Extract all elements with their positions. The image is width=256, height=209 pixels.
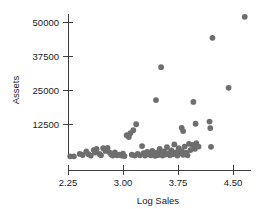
data-point [98, 152, 104, 158]
data-point [71, 153, 77, 159]
scatter-plot-figure: 12500250003750050000 2.253.003.754.50 Lo… [0, 0, 256, 209]
data-point [207, 125, 213, 131]
x-axis-title: Log Sales [137, 195, 180, 206]
data-point [196, 144, 202, 150]
y-axis-tick-label: 25000 [33, 85, 59, 96]
y-axis-title: Assets [10, 75, 21, 104]
data-point [94, 146, 100, 152]
y-axis: 12500250003750050000 [33, 14, 73, 158]
data-point [191, 99, 197, 105]
data-point [193, 121, 199, 127]
data-point [171, 142, 177, 148]
data-point [158, 64, 164, 70]
x-axis-tick-label: 2.25 [59, 177, 78, 188]
y-axis-tick-label: 12500 [33, 119, 59, 130]
data-point [180, 128, 186, 134]
data-point [130, 127, 136, 133]
data-point [242, 14, 248, 20]
data-point [185, 152, 191, 158]
data-point [208, 144, 214, 150]
data-point [226, 85, 232, 91]
data-points-layer [67, 14, 247, 159]
x-axis-tick-label: 4.50 [224, 177, 243, 188]
data-point [153, 97, 159, 103]
data-point [210, 35, 216, 41]
x-axis-tick-label: 3.00 [114, 177, 133, 188]
data-point [207, 119, 213, 125]
x-axis: 2.253.003.754.50 [59, 165, 251, 188]
plot-canvas: 12500250003750050000 2.253.003.754.50 Lo… [0, 0, 256, 209]
data-point [133, 121, 139, 127]
y-axis-tick-label: 37500 [33, 51, 59, 62]
data-point [122, 153, 128, 159]
data-point [139, 143, 145, 149]
y-axis-tick-label: 50000 [33, 17, 59, 28]
x-axis-tick-label: 3.75 [169, 177, 188, 188]
